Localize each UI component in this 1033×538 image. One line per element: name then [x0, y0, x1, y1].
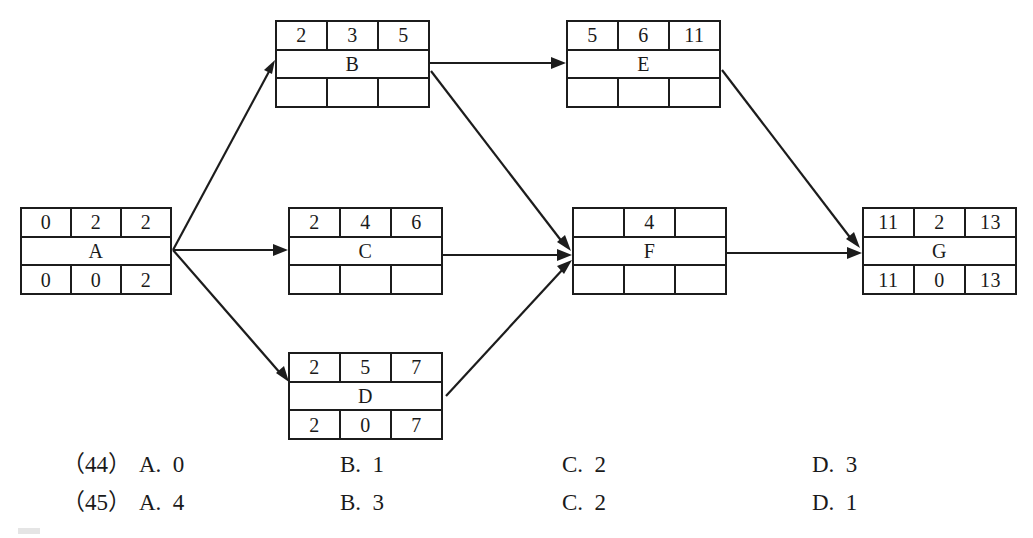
node-d-duration: 5: [339, 354, 390, 381]
node-c-ef: 6: [390, 209, 441, 236]
node-a-label: A: [22, 238, 170, 264]
node-d-es: 2: [290, 354, 339, 381]
option-45-a[interactable]: A. 4: [139, 484, 184, 522]
network-node-a[interactable]: 0 2 2 A 0 0 2: [20, 207, 172, 295]
node-e-ls: [568, 79, 617, 106]
node-g-ef: 13: [964, 209, 1015, 236]
node-e-lf: [668, 79, 719, 106]
answer-options: （44） A. 0 B. 1 C. 2 D. 3 （45） A. 4 B. 3 …: [0, 446, 1033, 522]
node-g-top-row: 11 2 13: [864, 209, 1015, 238]
node-g-label: G: [864, 238, 1015, 264]
node-b-ls: [277, 79, 326, 106]
node-g-duration: 2: [913, 209, 964, 236]
node-b-label: B: [277, 51, 428, 77]
option-44-c[interactable]: C. 2: [562, 446, 606, 484]
node-a-top-row: 0 2 2: [22, 209, 170, 238]
node-c-ls: [290, 266, 339, 293]
node-g-ls: 11: [864, 266, 913, 293]
node-c-bottom-row: [290, 264, 441, 293]
node-c-float: [339, 266, 390, 293]
node-e-label-row: E: [568, 51, 719, 77]
node-a-lf: 2: [120, 266, 170, 293]
node-d-bottom-row: 2 0 7: [290, 409, 441, 438]
option-45-d[interactable]: D. 1: [812, 484, 857, 522]
node-f-ls: [574, 266, 623, 293]
node-e-es: 5: [568, 22, 617, 49]
node-f-bottom-row: [574, 264, 725, 293]
node-a-ls: 0: [22, 266, 70, 293]
network-diagram-canvas: 0 2 2 A 0 0 2 2 3 5 B 2 4: [0, 0, 1033, 538]
page-scan-artifact: [18, 528, 40, 534]
node-d-label: D: [290, 383, 441, 409]
option-45-c[interactable]: C. 2: [562, 484, 606, 522]
question-number-44: （44）: [62, 446, 131, 484]
node-c-es: 2: [290, 209, 339, 236]
edge-d-to-f: [446, 260, 572, 396]
node-d-lf: 7: [390, 411, 441, 438]
edge-b-to-e: [430, 57, 566, 69]
network-node-d[interactable]: 2 5 7 D 2 0 7: [288, 352, 443, 440]
node-f-lf: [674, 266, 725, 293]
node-b-lf: [377, 79, 428, 106]
node-c-duration: 4: [339, 209, 390, 236]
node-g-bottom-row: 11 0 13: [864, 264, 1015, 293]
edge-b-to-f: [431, 71, 571, 251]
node-a-duration: 2: [70, 209, 120, 236]
node-f-label: F: [574, 238, 725, 264]
node-d-label-row: D: [290, 383, 441, 409]
node-f-top-row: 4: [574, 209, 725, 238]
node-a-float: 0: [70, 266, 120, 293]
edge-c-to-f: [443, 249, 572, 261]
network-node-b[interactable]: 2 3 5 B: [275, 20, 430, 108]
node-d-float: 0: [339, 411, 390, 438]
edge-a-to-c: [173, 244, 288, 256]
node-c-label-row: C: [290, 238, 441, 264]
node-e-ef: 11: [668, 22, 719, 49]
node-f-es: [574, 209, 623, 236]
node-g-label-row: G: [864, 238, 1015, 264]
node-b-top-row: 2 3 5: [277, 22, 428, 51]
node-c-label: C: [290, 238, 441, 264]
node-d-ls: 2: [290, 411, 339, 438]
question-number-45: （45）: [62, 484, 131, 522]
node-a-ef: 2: [120, 209, 170, 236]
node-b-duration: 3: [326, 22, 377, 49]
node-e-bottom-row: [568, 77, 719, 106]
node-b-es: 2: [277, 22, 326, 49]
node-e-duration: 6: [617, 22, 668, 49]
edge-a-to-b: [173, 60, 275, 250]
node-c-top-row: 2 4 6: [290, 209, 441, 238]
node-g-float: 0: [913, 266, 964, 293]
option-45-b[interactable]: B. 3: [340, 484, 384, 522]
network-node-f[interactable]: 4 F: [572, 207, 727, 295]
node-f-label-row: F: [574, 238, 725, 264]
option-44-b[interactable]: B. 1: [340, 446, 384, 484]
option-44-d[interactable]: D. 3: [812, 446, 857, 484]
node-a-label-row: A: [22, 238, 170, 264]
node-e-float: [617, 79, 668, 106]
node-g-lf: 13: [964, 266, 1015, 293]
node-a-es: 0: [22, 209, 70, 236]
node-b-ef: 5: [377, 22, 428, 49]
node-c-lf: [390, 266, 441, 293]
network-node-g[interactable]: 11 2 13 G 11 0 13: [862, 207, 1017, 295]
node-d-top-row: 2 5 7: [290, 354, 441, 383]
node-f-duration: 4: [623, 209, 674, 236]
answer-row-45: （45） A. 4 B. 3 C. 2 D. 1: [0, 484, 1033, 522]
edge-e-to-g: [722, 70, 860, 248]
option-44-a[interactable]: A. 0: [139, 446, 184, 484]
node-a-bottom-row: 0 0 2: [22, 264, 170, 293]
network-node-c[interactable]: 2 4 6 C: [288, 207, 443, 295]
node-e-label: E: [568, 51, 719, 77]
answer-row-44: （44） A. 0 B. 1 C. 2 D. 3: [0, 446, 1033, 484]
node-b-float: [326, 79, 377, 106]
node-f-float: [623, 266, 674, 293]
node-g-es: 11: [864, 209, 913, 236]
node-b-bottom-row: [277, 77, 428, 106]
network-node-e[interactable]: 5 6 11 E: [566, 20, 721, 108]
edge-a-to-d: [173, 250, 289, 382]
node-b-label-row: B: [277, 51, 428, 77]
node-e-top-row: 5 6 11: [568, 22, 719, 51]
edge-f-to-g: [727, 247, 862, 259]
node-d-ef: 7: [390, 354, 441, 381]
